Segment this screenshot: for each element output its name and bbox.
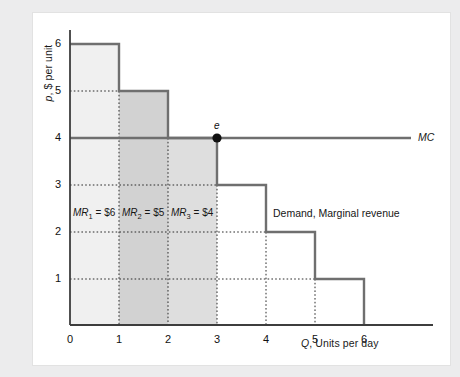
- x-tick-label-2: 2: [160, 333, 176, 345]
- x-tick-label-4: 4: [258, 333, 274, 345]
- mr3-label: MR3 = $4: [171, 207, 213, 221]
- figure-panel: 6 5 4 3 2 1 0 1 2 3 4 5 6 p, $ per unit …: [33, 13, 450, 365]
- y-tick-label-2: 2: [50, 225, 66, 237]
- demand-curve-label: Demand, Marginal revenue: [273, 207, 400, 219]
- mr1-label: MR1 = $6: [73, 207, 115, 221]
- y-axis-title: p, $ per unit: [42, 28, 54, 118]
- y-tick-label-1: 1: [50, 272, 66, 284]
- x-axis-title: Q, Units per day: [301, 337, 378, 349]
- x-tick-label-1: 1: [111, 333, 127, 345]
- x-tick-label-0: 0: [62, 333, 78, 345]
- y-tick-label-3: 3: [50, 178, 66, 190]
- chart-plot-area: 6 5 4 3 2 1 0 1 2 3 4 5 6 p, $ per unit …: [33, 13, 450, 365]
- shaded-region-mr1: [70, 44, 119, 325]
- chart-svg: [33, 13, 450, 365]
- mc-curve-label: MC: [418, 131, 434, 143]
- y-tick-label-4: 4: [50, 131, 66, 143]
- mr2-label: MR2 = $5: [122, 207, 164, 221]
- x-tick-label-3: 3: [209, 333, 225, 345]
- equilibrium-point-e-label: e: [214, 120, 220, 131]
- equilibrium-point-e-marker: [212, 133, 221, 142]
